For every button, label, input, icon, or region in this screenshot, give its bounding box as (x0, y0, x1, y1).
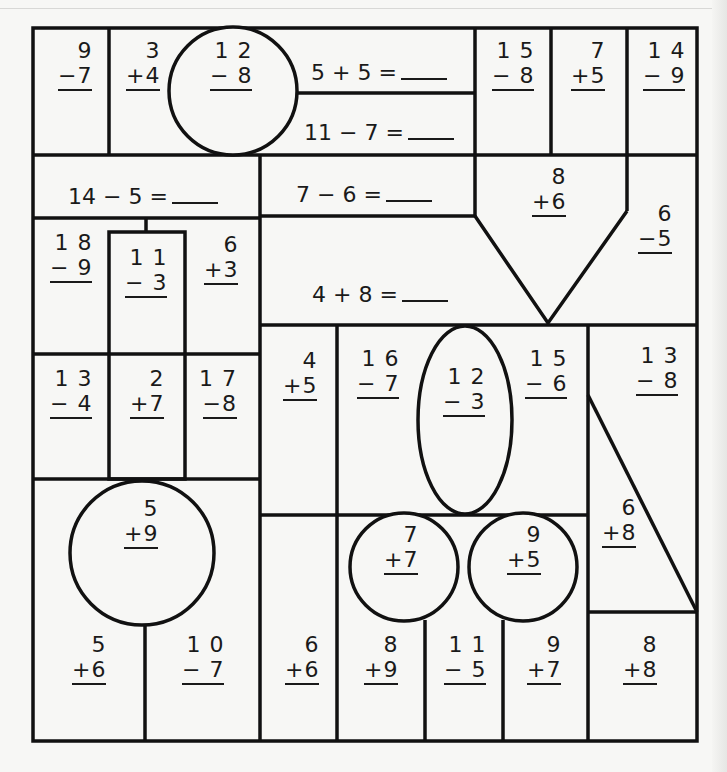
problem: 7+5 (571, 38, 605, 91)
answer-blank[interactable] (172, 184, 218, 204)
problem: 1 0− 7 (182, 632, 224, 685)
problem: 1 5− 8 (492, 38, 534, 91)
answer-blank[interactable] (401, 60, 447, 80)
problem: 9−7 (58, 38, 92, 91)
answer-blank[interactable] (408, 120, 454, 140)
horizontal-problem: 5 + 5 = (311, 60, 447, 85)
problem: 7+7 (384, 522, 418, 575)
horizontal-problem: 11 − 7 = (304, 120, 454, 145)
problem: 6−5 (638, 201, 672, 254)
problem: 8+9 (364, 632, 398, 685)
answer-blank[interactable] (402, 282, 448, 302)
problem: 1 1− 3 (125, 245, 167, 298)
horizontal-problem: 7 − 6 = (296, 182, 432, 207)
problem: 1 7−8 (199, 366, 237, 419)
problem: 1 3− 8 (636, 343, 678, 396)
problem: 1 2− 8 (210, 38, 252, 91)
problem: 2+7 (130, 366, 164, 419)
horizontal-problem: 14 − 5 = (68, 184, 218, 209)
problem: 8+6 (532, 164, 566, 217)
problem: 1 2− 3 (443, 364, 485, 417)
problem: 8+8 (623, 632, 657, 685)
problem: 1 4− 9 (643, 38, 685, 91)
problem: 1 1− 5 (444, 632, 486, 685)
horizontal-problem: 4 + 8 = (312, 282, 448, 307)
ellipse-shape (418, 326, 512, 514)
problem: 6+6 (285, 632, 319, 685)
problem: 9+5 (507, 522, 541, 575)
problem: 6+8 (602, 495, 636, 548)
problem: 9+7 (527, 632, 561, 685)
problem: 4+5 (283, 348, 317, 401)
v-shape (475, 211, 627, 323)
answer-blank[interactable] (386, 182, 432, 202)
problem: 1 8− 9 (50, 230, 92, 283)
problem: 6+3 (204, 232, 238, 285)
problem: 5+9 (124, 496, 158, 549)
problem: 1 5− 6 (525, 346, 567, 399)
problem: 1 3− 4 (50, 366, 92, 419)
problem: 1 6− 7 (357, 346, 399, 399)
problem: 5+6 (72, 632, 106, 685)
problem: 3+4 (126, 38, 160, 91)
